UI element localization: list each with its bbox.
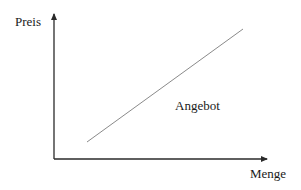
supply-curve-line xyxy=(87,29,243,142)
y-axis-label: Preis xyxy=(15,15,41,28)
supply-chart xyxy=(0,0,301,190)
supply-curve-label: Angebot xyxy=(175,99,220,112)
x-axis-label: Menge xyxy=(250,167,286,180)
